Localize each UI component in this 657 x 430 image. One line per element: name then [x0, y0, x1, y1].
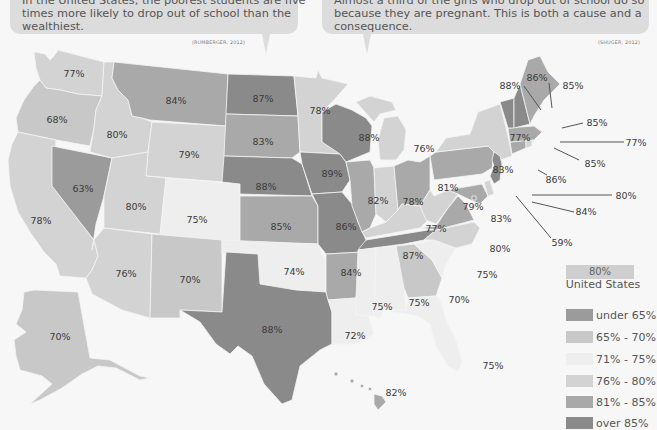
legend-swatch	[566, 417, 593, 429]
label-va: 83%	[490, 213, 511, 224]
state-hawaii-island-3[interactable]	[360, 384, 364, 388]
label-mi: 76%	[413, 143, 434, 154]
label-ny: 77%	[509, 132, 530, 143]
legend-item-under-65: under 65%	[566, 309, 656, 321]
legend-swatch	[566, 353, 593, 365]
label-ma: 85%	[586, 117, 607, 128]
label-wi: 88%	[358, 132, 379, 143]
label-mt: 84%	[165, 95, 186, 106]
label-vt: 88%	[499, 80, 520, 91]
label-wv: 79%	[462, 201, 483, 212]
label-fl: 75%	[482, 360, 503, 371]
label-oh: 81%	[437, 182, 458, 193]
label-sd: 83%	[252, 136, 273, 147]
label-tn: 87%	[402, 250, 423, 261]
label-or: 68%	[46, 114, 67, 125]
leader-line-md	[532, 202, 574, 212]
legend-item-71-75: 71% - 75%	[566, 353, 656, 365]
label-sc: 75%	[476, 269, 497, 280]
state-hawaii-island-4[interactable]	[368, 387, 372, 391]
label-pa: 83%	[492, 164, 513, 175]
label-ia: 89%	[321, 168, 342, 179]
legend-item-65-70: 65% - 70%	[566, 331, 656, 343]
label-nh: 86%	[526, 72, 547, 83]
leader-line-ma	[562, 123, 583, 128]
label-md: 84%	[575, 206, 596, 217]
label-me: 85%	[562, 80, 583, 91]
label-nm: 70%	[179, 274, 200, 285]
state-hawaii[interactable]	[374, 394, 386, 410]
label-ok: 74%	[283, 266, 304, 277]
label-in: 78%	[402, 196, 423, 207]
label-hi: 82%	[385, 387, 406, 398]
state-dc[interactable]	[472, 196, 476, 200]
label-nd: 87%	[252, 93, 273, 104]
label-al: 75%	[408, 297, 429, 308]
label-ct: 85%	[584, 158, 605, 169]
legend-label: under 65%	[596, 309, 656, 322]
state-kansas[interactable]	[240, 196, 318, 244]
label-ks: 85%	[270, 221, 291, 232]
legend-item-81-85: 81% - 85%	[566, 396, 656, 408]
label-wa: 77%	[63, 68, 84, 79]
label-ak: 70%	[49, 331, 70, 342]
legend-swatch	[566, 375, 593, 387]
label-tx: 88%	[261, 324, 282, 335]
label-ky: 77%	[425, 223, 446, 234]
label-nj: 86%	[545, 174, 566, 185]
legend-label: 65% - 70%	[596, 331, 656, 344]
legend-swatch	[566, 309, 593, 321]
label-nc: 80%	[489, 243, 510, 254]
legend-label: over 85%	[596, 417, 648, 430]
legend-national-value: 80%	[566, 266, 634, 277]
label-wy: 79%	[178, 149, 199, 160]
label-id: 80%	[106, 129, 127, 140]
state-hawaii-island-1[interactable]	[334, 372, 338, 376]
label-ut: 80%	[125, 201, 146, 212]
label-mn: 78%	[309, 105, 330, 116]
legend-label: 76% - 80%	[596, 375, 656, 388]
leader-line-ct	[554, 148, 579, 160]
label-de: 80%	[615, 190, 636, 201]
label-ms: 75%	[371, 301, 392, 312]
label-az: 76%	[115, 268, 136, 279]
label-ri: 77%	[625, 137, 646, 148]
label-nv: 63%	[72, 183, 93, 194]
state-hawaii-island-2[interactable]	[350, 379, 354, 383]
label-la: 72%	[344, 330, 365, 341]
label-ar: 84%	[340, 267, 361, 278]
legend-swatch	[566, 331, 593, 343]
label-ne: 88%	[255, 181, 276, 192]
label-ca: 78%	[30, 215, 51, 226]
label-co: 75%	[186, 214, 207, 225]
legend-national-label: United States	[558, 278, 648, 291]
legend-item-over-85: over 85%	[566, 417, 648, 429]
legend-swatch	[566, 396, 593, 408]
label-ga: 70%	[448, 294, 469, 305]
legend-item-76-80: 76% - 80%	[566, 375, 656, 387]
label-dc: 59%	[551, 237, 572, 248]
label-mo: 86%	[335, 221, 356, 232]
state-colorado[interactable]	[160, 178, 240, 242]
label-il: 82%	[367, 195, 388, 206]
legend-label: 81% - 85%	[596, 396, 656, 409]
legend-label: 71% - 75%	[596, 353, 656, 366]
